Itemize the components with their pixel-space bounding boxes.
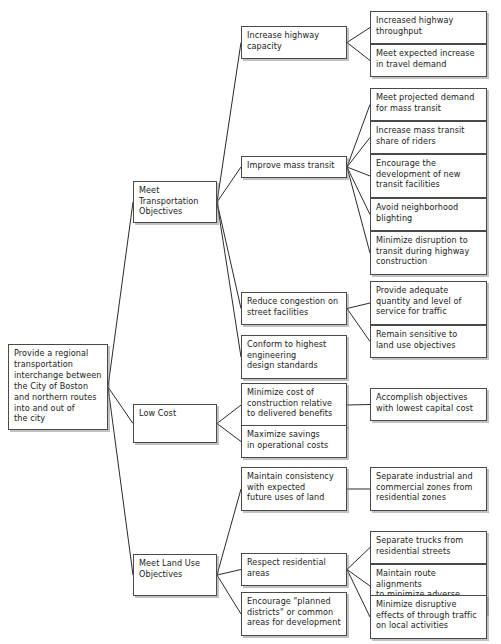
connector-l2-residential-to-l3-separate-trucks — [347, 548, 370, 570]
connector-l1-transportation-to-l2-congestion — [217, 202, 241, 309]
connector-l1-lowcost-to-l2-max-savings — [217, 424, 241, 442]
connector-l2-residential-to-l3-route-alignments — [347, 570, 370, 587]
node-l3-share-riders[interactable]: Increase mass transit share of riders — [370, 121, 487, 154]
connector-l2-congestion-to-l3-service-traffic — [347, 303, 370, 309]
objectives-tree-diagram: Provide a regional transportation interc… — [0, 0, 501, 644]
connector-l2-mass-transit-to-l3-new-facilities — [347, 167, 370, 176]
node-l3-blighting[interactable]: Avoid neighborhood blighting — [370, 198, 487, 231]
connector-l1-landuse-to-l2-consistency — [217, 489, 241, 575]
connector-l2-mass-transit-to-l3-projected-demand — [347, 105, 370, 168]
node-l3-throughput[interactable]: Increased highway throughput — [370, 11, 487, 44]
node-l2-congestion[interactable]: Reduce congestion on street facilities — [241, 292, 347, 325]
connector-l2-mass-transit-to-l3-blighting — [347, 167, 370, 215]
node-l2-engineering[interactable]: Conform to highest engineering design st… — [241, 335, 347, 379]
connector-l2-highway-capacity-to-l3-travel-demand — [347, 43, 370, 61]
connector-l1-landuse-to-l2-residential — [217, 570, 241, 576]
node-l2-planned-districts[interactable]: Encourage "planned districts" or common … — [241, 592, 347, 636]
node-l3-lowest-capital[interactable]: Accomplish objectives with lowest capita… — [370, 388, 487, 421]
node-l3-travel-demand[interactable]: Meet expected increase in travel demand — [370, 44, 487, 77]
node-l3-projected-demand[interactable]: Meet projected demand for mass transit — [370, 88, 487, 121]
node-l1-lowcost[interactable]: Low Cost — [133, 404, 217, 443]
node-l3-separate-zones[interactable]: Separate industrial and commercial zones… — [370, 467, 487, 511]
connector-l2-min-cost-to-l3-lowest-capital — [347, 405, 370, 406]
node-l2-mass-transit[interactable]: Improve mass transit — [241, 156, 347, 178]
connector-root-to-l1-landuse — [108, 387, 133, 575]
connector-l1-landuse-to-l2-planned-districts — [217, 575, 241, 614]
node-root[interactable]: Provide a regional transportation interc… — [8, 344, 108, 430]
node-l3-land-use-sensitive[interactable]: Remain sensitive to land use objectives — [370, 325, 487, 358]
connector-root-to-l1-lowcost — [108, 387, 133, 424]
connector-l2-mass-transit-to-l3-disruption-transit — [347, 167, 370, 253]
node-l3-new-facilities[interactable]: Encourage the development of new transit… — [370, 154, 487, 198]
connector-l1-transportation-to-l2-highway-capacity — [217, 43, 241, 203]
connector-l1-transportation-to-l2-engineering — [217, 202, 241, 357]
node-l3-disruption-transit[interactable]: Minimize disruption to transit during hi… — [370, 231, 487, 275]
connector-l1-transportation-to-l2-mass-transit — [217, 167, 241, 202]
node-l2-consistency[interactable]: Maintain consistency with expected futur… — [241, 467, 347, 511]
connector-l1-lowcost-to-l2-min-cost — [217, 405, 241, 424]
node-l1-transportation[interactable]: Meet Transportation Objectives — [133, 181, 217, 223]
connector-l2-congestion-to-l3-land-use-sensitive — [347, 309, 370, 342]
node-l2-max-savings[interactable]: Maximize savings in operational costs — [241, 425, 347, 458]
node-l3-separate-trucks[interactable]: Separate trucks from residential streets — [370, 531, 487, 564]
connector-root-to-l1-transportation — [108, 202, 133, 387]
connector-l2-mass-transit-to-l3-share-riders — [347, 138, 370, 168]
node-l2-min-cost[interactable]: Minimize cost of construction relative t… — [241, 383, 347, 427]
connector-l2-residential-to-l3-through-traffic — [347, 570, 370, 618]
connector-l2-highway-capacity-to-l3-throughput — [347, 28, 370, 43]
node-l3-service-traffic[interactable]: Provide adequate quantity and level of s… — [370, 281, 487, 325]
node-l3-through-traffic[interactable]: Minimize disruptive effects of through t… — [370, 595, 487, 639]
node-l2-highway-capacity[interactable]: Increase highway capacity — [241, 26, 347, 59]
node-l2-residential[interactable]: Respect residential areas — [241, 553, 347, 586]
node-l1-landuse[interactable]: Meet Land Use Objectives — [133, 554, 217, 596]
